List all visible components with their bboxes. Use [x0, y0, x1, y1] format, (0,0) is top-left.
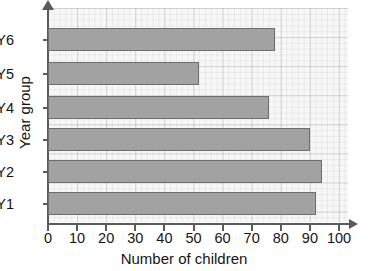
- x-tick-label: 60: [215, 231, 231, 246]
- x-tick-label: 10: [69, 231, 85, 246]
- y-tick-mark: [43, 39, 48, 41]
- bar-y2: [48, 160, 322, 183]
- x-tick-label: 0: [44, 231, 52, 246]
- x-axis-line: [47, 223, 350, 225]
- y-tick-mark: [43, 73, 48, 75]
- x-tick-label: 80: [273, 231, 289, 246]
- y-tick-label-y3: Y3: [0, 133, 14, 148]
- x-tick-label: 70: [244, 231, 260, 246]
- y-tick-mark: [43, 203, 48, 205]
- bar-y1: [48, 192, 316, 215]
- bar-y5: [48, 62, 199, 85]
- x-tick-label: 30: [127, 231, 143, 246]
- x-tick-label: 50: [185, 231, 201, 246]
- x-axis-arrow-icon: [349, 219, 358, 229]
- bar-y3: [48, 128, 310, 151]
- bar-y6: [48, 28, 275, 51]
- y-tick-mark: [43, 171, 48, 173]
- y-tick-label-y5: Y5: [0, 67, 14, 82]
- y-tick-mark: [43, 139, 48, 141]
- y-tick-mark: [43, 107, 48, 109]
- y-tick-label-y4: Y4: [0, 101, 14, 116]
- y-tick-label-y2: Y2: [0, 165, 14, 180]
- bar-y4: [48, 96, 269, 119]
- x-axis-title: Number of children: [0, 250, 368, 267]
- x-tick-label: 90: [302, 231, 318, 246]
- y-axis-arrow-icon: [42, 0, 54, 10]
- x-tick-label: 40: [156, 231, 172, 246]
- y-tick-label-y6: Y6: [0, 33, 14, 48]
- bar-chart: Y6 Y5 Y4 Y3 Y2 Y1 0102030405060708090100…: [0, 0, 368, 271]
- x-tick-label: 20: [98, 231, 114, 246]
- x-tick-label: 100: [327, 231, 351, 246]
- y-tick-label-y1: Y1: [0, 197, 14, 212]
- y-axis-title: Year group: [16, 43, 33, 183]
